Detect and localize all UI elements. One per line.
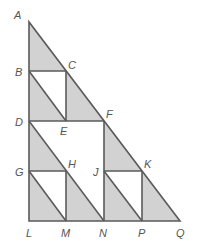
label-F: F <box>106 108 114 120</box>
label-E: E <box>60 125 68 137</box>
triangle-diagram: A B C D E F G H J K L M N P Q <box>0 0 197 248</box>
label-D: D <box>15 116 23 128</box>
label-J: J <box>92 166 99 178</box>
label-H: H <box>68 158 76 170</box>
label-A: A <box>13 9 21 21</box>
label-B: B <box>15 66 22 78</box>
outline-lines <box>29 22 180 221</box>
label-C: C <box>68 59 76 71</box>
label-Q: Q <box>176 227 185 239</box>
label-G: G <box>15 166 24 178</box>
label-L: L <box>26 227 32 239</box>
label-N: N <box>99 227 107 239</box>
label-P: P <box>138 227 146 239</box>
label-M: M <box>61 227 71 239</box>
label-K: K <box>144 158 152 170</box>
